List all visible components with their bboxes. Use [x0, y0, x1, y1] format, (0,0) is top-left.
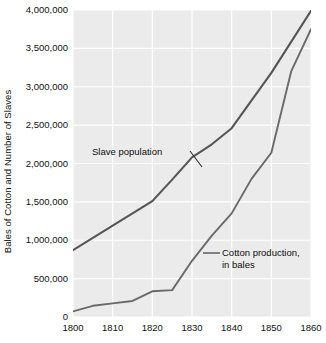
line-chart: Bales of Cotton and Number of Slaves 050…: [0, 0, 326, 343]
x-tick-label: 1830: [172, 322, 212, 333]
x-tick-label: 1860: [291, 322, 326, 333]
x-tick-label: 1840: [212, 322, 252, 333]
x-axis-tick-labels: 1800181018201830184018501860: [0, 0, 326, 343]
cotton-production-label-line1: Cotton production,: [222, 247, 300, 259]
x-tick-label: 1820: [132, 322, 172, 333]
x-tick-label: 1800: [53, 322, 93, 333]
cotton-production-label: Cotton production, in bales: [222, 247, 300, 270]
slave-population-label: Slave population: [92, 146, 162, 158]
x-tick-label: 1850: [251, 322, 291, 333]
cotton-production-label-line2: in bales: [222, 259, 300, 271]
x-tick-label: 1810: [93, 322, 133, 333]
